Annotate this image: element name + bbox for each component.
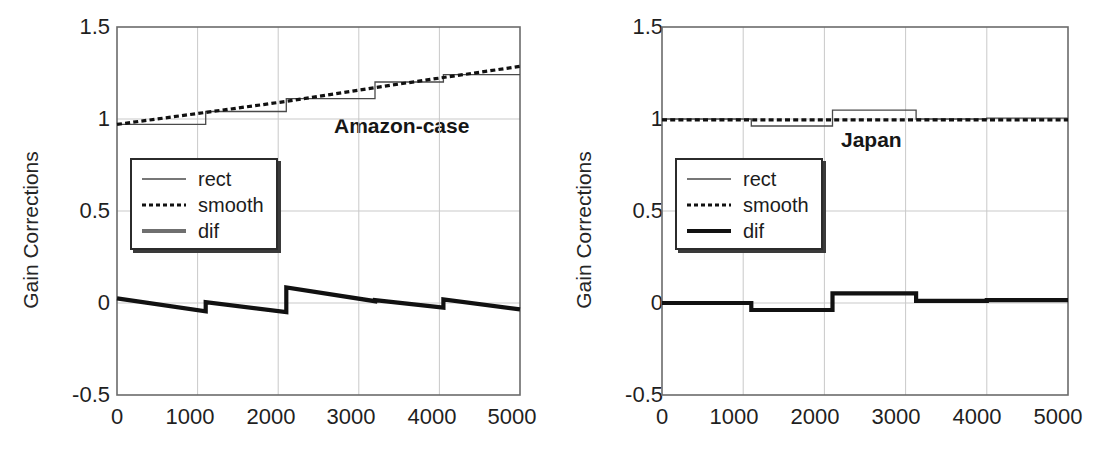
legend-label-smooth: smooth [198,195,264,215]
chart-panel-japan: Gain Corrections 1.5 1 0.5 0 -0.5 0 1000… [553,0,1106,459]
legend-row-smooth[interactable]: smooth [685,192,811,218]
legend-label-rect: rect [198,169,231,189]
legend-row-smooth[interactable]: smooth [140,192,266,218]
legend-key-dif-icon [140,223,188,239]
legend-label-smooth: smooth [743,195,809,215]
legend-row-rect[interactable]: rect [140,166,266,192]
legend-row-rect[interactable]: rect [685,166,811,192]
series-rect-right [662,110,1068,126]
legend-left[interactable]: rect smooth dif [130,158,278,250]
legend-right[interactable]: rect smooth dif [675,158,823,250]
figure-two-panel-chart: Gain Corrections 1.5 1 0.5 0 -0.5 0 1000… [0,0,1106,459]
legend-key-smooth-icon [685,197,733,213]
legend-row-dif[interactable]: dif [685,218,811,244]
legend-label-dif: dif [743,221,764,241]
series-smooth-left [117,66,520,124]
legend-key-rect-icon [685,171,733,187]
legend-row-dif[interactable]: dif [140,218,266,244]
series-dif-right [662,293,1068,310]
series-dif-left [117,287,520,312]
chart-panel-amazon: Gain Corrections 1.5 1 0.5 0 -0.5 0 1000… [0,0,553,459]
legend-key-smooth-icon [140,197,188,213]
legend-label-dif: dif [198,221,219,241]
plot-area-japan [553,0,1106,459]
legend-label-rect: rect [743,169,776,189]
legend-key-dif-icon [685,223,733,239]
legend-key-rect-icon [140,171,188,187]
